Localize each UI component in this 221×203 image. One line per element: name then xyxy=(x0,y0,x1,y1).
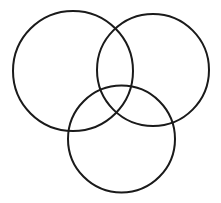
circle-top-right xyxy=(97,14,209,126)
venn-diagram xyxy=(0,0,221,203)
circle-bottom xyxy=(68,86,175,193)
venn-svg xyxy=(0,0,221,203)
